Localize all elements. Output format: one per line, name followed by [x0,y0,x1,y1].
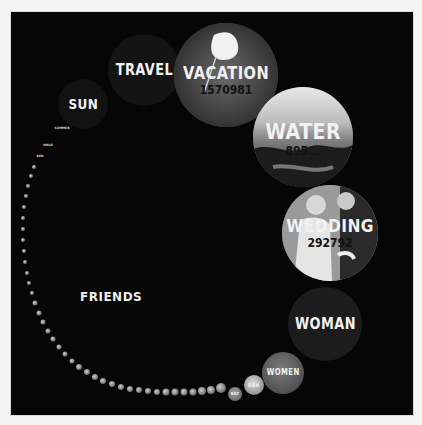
bubble-count: 1570981 [200,84,253,96]
bubble-women[interactable]: WOMEN [262,352,304,394]
bubble-water[interactable]: WATER 895... [253,87,353,187]
tag-dot[interactable] [70,359,75,364]
tag-dot[interactable] [22,249,26,253]
bubble-woman[interactable]: WOMAN [288,287,362,361]
tag-dot[interactable] [100,378,106,384]
tag-dot[interactable] [207,386,215,394]
tag-dot[interactable] [21,238,25,242]
tag-dot[interactable] [33,301,38,306]
bubble-wedding[interactable]: WEDDING 292792 [282,185,378,281]
tag-dot[interactable] [145,388,151,394]
tag-red[interactable]: RED [37,154,44,158]
tag-dot[interactable] [172,389,179,396]
tag-summer[interactable]: SUMMER [55,126,70,130]
friends-label[interactable]: FRIENDS [80,290,142,304]
bubble-travel[interactable]: TRAVEL [108,34,180,106]
tag-dot[interactable] [109,381,115,387]
tag-dot[interactable] [51,337,56,342]
bubble-ban[interactable]: BAN [244,375,264,395]
tag-smile[interactable]: SMILE [43,143,53,147]
tag-dot[interactable] [92,374,98,380]
tag-dot[interactable] [76,364,82,370]
tag-dot[interactable] [127,386,133,392]
tag-dot[interactable] [24,194,28,198]
tag-dot[interactable] [216,383,226,393]
tag-dot[interactable] [118,384,124,390]
tag-dot[interactable] [41,320,46,325]
bubble-label: TRAVEL [115,63,172,78]
tag-dot[interactable] [30,291,34,295]
bubble-label: BAY [231,392,240,396]
bubble-label: WEDDING [286,217,374,235]
bubble-label: VACATION [183,65,269,82]
bubble-sun[interactable]: SUN [58,79,108,129]
tag-dot[interactable] [57,345,62,350]
tag-dot[interactable] [84,369,90,375]
tag-dot[interactable] [154,389,160,395]
tag-dot[interactable] [198,387,206,395]
tag-dot[interactable] [136,387,142,393]
bubble-label: BAN [248,383,260,388]
tag-dot[interactable] [37,311,42,316]
tag-dot[interactable] [163,389,170,396]
tag-dot[interactable] [181,389,188,396]
tag-dot[interactable] [21,227,25,231]
bubble-count: 895... [286,145,321,157]
tag-dot[interactable] [21,216,25,220]
visualization-panel: TRAVEL SUN VACATION 1570981 [11,12,413,415]
bubble-label: SUN [68,97,98,111]
tag-dot[interactable] [63,352,68,357]
bubble-label: WOMAN [295,317,356,332]
bubble-label: WATER [265,121,341,143]
tag-dot[interactable] [32,165,36,169]
tag-dot[interactable] [27,281,31,285]
tag-dot[interactable] [190,389,197,396]
bubble-count: 292792 [307,237,352,249]
tag-dot[interactable] [29,174,33,178]
tag-dot[interactable] [26,184,30,188]
tag-dot[interactable] [23,260,27,264]
bubble-label: WOMEN [267,369,300,377]
tag-dot[interactable] [25,271,29,275]
bubble-bay[interactable]: BAY [228,387,242,401]
tag-dot[interactable] [22,205,26,209]
tag-dot[interactable] [46,329,51,334]
